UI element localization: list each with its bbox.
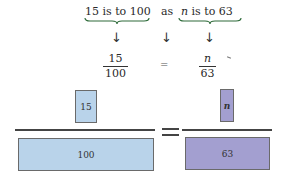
right-fraction: n 63 [199, 53, 216, 80]
equals-sign: = [160, 59, 168, 71]
down-arrow-icon: ↓ [161, 31, 172, 44]
right-fraction-numerator: n [199, 53, 216, 65]
left-brace-icon [84, 17, 150, 25]
connector-as: as [161, 6, 173, 18]
right-numerator-label: n [224, 101, 231, 111]
right-fraction-denominator: 63 [199, 68, 216, 80]
down-arrow-icon: ↓ [111, 31, 122, 44]
right-fraction-rule [182, 129, 272, 131]
left-fraction-numerator: 15 [103, 53, 128, 65]
right-denominator-label: 63 [222, 149, 233, 159]
left-fraction: 15 100 [103, 53, 128, 80]
equals-sign-bottom [162, 134, 179, 136]
equals-sign-top [162, 128, 179, 130]
left-fraction-denominator: 100 [103, 68, 128, 80]
left-numerator-box: 15 [75, 90, 97, 123]
right-brace-icon [178, 17, 242, 25]
left-denominator-label: 100 [77, 150, 94, 160]
right-numerator-box: n [220, 89, 234, 122]
left-fraction-rule [15, 129, 155, 131]
right-denominator-box: 63 [185, 137, 270, 170]
tick-mark [227, 56, 231, 58]
down-arrow-icon: ↓ [204, 31, 215, 44]
left-numerator-label: 15 [80, 102, 91, 112]
left-denominator-box: 100 [18, 138, 154, 171]
